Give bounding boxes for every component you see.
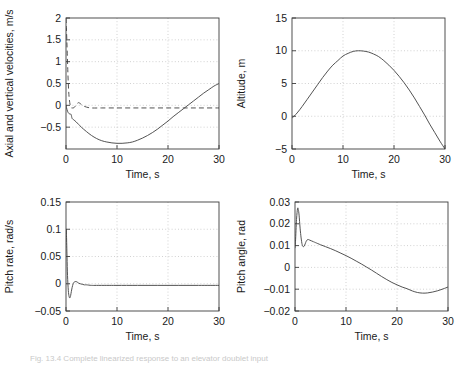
y-tick-label: 0 [55,99,61,111]
y-tick-label: 1.5 [46,33,61,45]
y-tick-label: 0 [281,110,287,122]
pitch-rate-chart: 0102030−0.0500.050.10.15Time, sPitch rat… [0,186,229,348]
y-tick-label: 0.02 [270,217,291,229]
subplot-pitch-rate: 0102030−0.0500.050.10.15Time, sPitch rat… [0,186,229,348]
x-axis-label: Time, s [125,330,159,342]
y-tick-label: 0.05 [41,250,62,262]
y-tick-label: 0.01 [270,239,291,251]
x-tick-label: 10 [111,153,123,165]
x-tick-label: 0 [63,153,69,165]
y-axis-label: Pitch angle, rad [235,220,247,293]
axial-velocities-chart: 0102030−0.500.511.52Time, sAxial and ver… [0,2,229,186]
y-tick-label: 10 [275,44,287,56]
x-tick-label: 20 [388,153,400,165]
y-axis-label: Pitch rate, rad/s [3,220,15,294]
x-tick-label: 10 [111,315,123,327]
y-tick-label: 0 [284,261,290,273]
x-tick-label: 30 [442,315,454,327]
x-axis-label: Time, s [354,330,388,342]
x-tick-label: 30 [213,315,225,327]
x-tick-label: 0 [63,315,69,327]
y-tick-label: 0.5 [46,77,61,89]
figure-caption: Fig. 13.4 Complete linearized response t… [30,354,430,364]
x-axis-label: Time, s [351,168,385,180]
pitch-angle-chart: 0102030−0.02−0.0100.010.020.03Time, sPit… [229,186,459,348]
x-tick-label: 0 [289,153,295,165]
subplot-pitch-angle: 0102030−0.02−0.0100.010.020.03Time, sPit… [229,186,459,348]
y-tick-label: −0.02 [263,305,290,317]
x-tick-label: 30 [439,153,451,165]
y-tick-label: 1 [55,55,61,67]
figure-container: 0102030−0.500.511.52Time, sAxial and ver… [0,0,459,368]
x-tick-label: 20 [162,153,174,165]
x-tick-label: 20 [162,315,174,327]
x-tick-label: 10 [340,315,352,327]
y-axis-label: Axial and vertical velocities, m/s [3,9,15,157]
y-tick-label: 2 [55,12,61,24]
y-tick-label: −5 [275,143,287,155]
y-tick-label: −0.05 [34,305,61,317]
x-axis-label: Time, s [125,168,159,180]
y-tick-label: 15 [275,12,287,24]
y-tick-label: 0.03 [270,196,291,208]
x-tick-label: 30 [213,153,225,165]
y-tick-label: 0.15 [41,196,62,208]
x-tick-label: 20 [391,315,403,327]
y-tick-label: 0.1 [46,223,61,235]
subplot-altitude: 0102030−5051015Time, sAltitude, m [229,2,459,186]
altitude-chart: 0102030−5051015Time, sAltitude, m [229,2,459,186]
x-tick-label: 10 [337,153,349,165]
y-tick-label: −0.01 [263,283,290,295]
x-tick-label: 0 [292,315,298,327]
y-tick-label: 0 [55,277,61,289]
y-tick-label: 5 [281,77,287,89]
y-axis-label: Altitude, m [235,58,247,108]
subplot-axial-vertical-velocities: 0102030−0.500.511.52Time, sAxial and ver… [0,2,229,186]
y-tick-label: −0.5 [40,121,61,133]
